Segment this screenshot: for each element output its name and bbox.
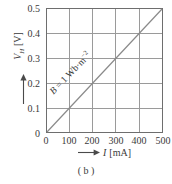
x-tick-label: 500 — [148, 136, 172, 146]
y-tick-label: 0.5 — [14, 4, 40, 14]
plot-area: B = 1 Wb·m−2 — [46, 8, 163, 133]
hall-voltage-figure: VH [V] 0.5 0.4 0.3 0.2 0.1 0 B = 1 Wb·m−… — [0, 0, 172, 184]
y-axis-title-subscript: H — [18, 49, 26, 54]
figure-caption: ( b ) — [0, 165, 172, 176]
y-tick-label: 0.1 — [14, 104, 40, 114]
y-tick-label: 0.2 — [14, 79, 40, 89]
x-axis-title: I [mA] — [46, 147, 163, 158]
y-tick-label: 0.3 — [14, 54, 40, 64]
x-axis-title-variable: I — [103, 147, 106, 158]
x-axis-title-unit: [mA] — [109, 147, 131, 158]
y-tick-label: 0.4 — [14, 29, 40, 39]
right-arrow-icon — [78, 148, 100, 157]
